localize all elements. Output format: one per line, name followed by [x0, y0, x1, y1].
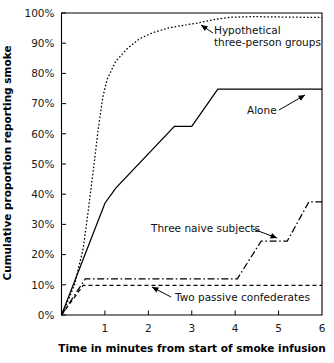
annotation-text: Hypothetical — [214, 24, 281, 36]
annotation-text: Three naive subjects — [150, 222, 260, 234]
y-tick-label: 30% — [31, 218, 54, 230]
y-tick-label: 50% — [31, 158, 54, 170]
x-tick-label: 2 — [145, 322, 152, 334]
x-tick-label: 4 — [232, 322, 239, 334]
y-tick-label: 0% — [38, 309, 55, 321]
annotation-text: three-person groups — [214, 36, 321, 48]
x-axis-title: Time in minutes from start of smoke infu… — [58, 342, 325, 354]
annotation-text: Alone — [247, 104, 277, 116]
chart-figure: 0%10%20%30%40%50%60%70%80%90%100% 123456… — [0, 0, 334, 363]
y-tick-label: 70% — [31, 97, 54, 109]
y-tick-label: 80% — [31, 67, 54, 79]
x-tick-label: 1 — [102, 322, 109, 334]
x-tick-label: 5 — [275, 322, 282, 334]
y-tick-label: 40% — [31, 188, 54, 200]
y-tick-label: 60% — [31, 128, 54, 140]
y-tick-label: 100% — [24, 7, 54, 19]
cumulative-smoke-report-line-chart: 0%10%20%30%40%50%60%70%80%90%100% 123456… — [0, 0, 334, 363]
y-axis-title: Cumulative proportion reporting smoke — [1, 46, 13, 281]
x-tick-label: 6 — [319, 322, 326, 334]
y-tick-label: 90% — [31, 37, 54, 49]
annotation-text: Two passive confederates — [174, 291, 310, 303]
y-tick-label: 20% — [31, 248, 54, 260]
x-tick-label: 3 — [188, 322, 195, 334]
y-tick-label: 10% — [31, 279, 54, 291]
